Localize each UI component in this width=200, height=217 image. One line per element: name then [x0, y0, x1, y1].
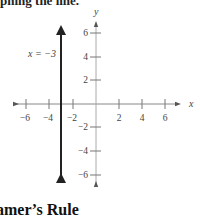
y-tick-label: 6: [83, 28, 88, 38]
x-tick-label: 6: [163, 113, 168, 123]
section-heading-fragment: amer’s Rule: [0, 201, 79, 217]
y-tick-label: −6: [78, 170, 88, 180]
y-axis-label: y: [93, 6, 99, 17]
x-tick-label: −4: [43, 113, 53, 123]
x-tick-labels: −6 −4 −2 2 4 6: [20, 113, 168, 123]
x-tick-label: 4: [140, 113, 145, 123]
y-tick-label: −2: [78, 122, 88, 132]
y-tick-label: 4: [83, 52, 88, 62]
x-tick-label: −2: [67, 113, 77, 123]
coordinate-graph: −6 −4 −2 2 4 6 6 4 2 −2 −4 −6 x y x = −3: [0, 0, 200, 200]
x-axis-label: x: [188, 98, 194, 109]
y-tick-label: 2: [83, 75, 88, 85]
y-tick-label: −4: [78, 146, 88, 156]
x-tick-label: 2: [117, 113, 122, 123]
line-label: x = −3: [27, 48, 56, 59]
x-tick-label: −6: [20, 113, 30, 123]
